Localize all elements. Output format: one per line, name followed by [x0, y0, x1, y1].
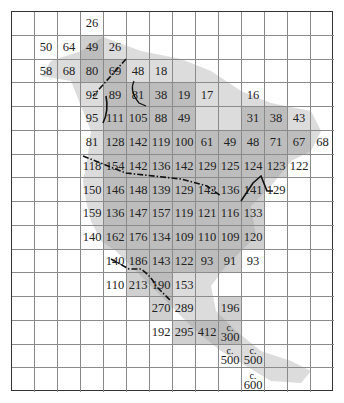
cell-value: 110: [106, 280, 124, 290]
grid-cell: [196, 107, 219, 131]
grid: 2650644926586880694818928981381917169511…: [11, 11, 333, 391]
grid-cell: [265, 368, 288, 392]
cell-value: 17: [201, 90, 214, 100]
grid-cell: [35, 226, 58, 250]
cell-value: 500: [221, 355, 240, 365]
grid-cell: 176: [127, 226, 150, 250]
grid-cell: [311, 83, 334, 107]
grid-cell: 95: [81, 107, 104, 131]
grid-cell: c.500: [242, 345, 265, 369]
grid-cell: 38: [265, 107, 288, 131]
grid-cell: 133: [242, 202, 265, 226]
grid-cell: [81, 368, 104, 392]
cell-value: 153: [175, 280, 194, 290]
grid-cell: 136: [219, 178, 242, 202]
grid-cell: 68: [58, 60, 81, 84]
cell-value: 140: [83, 232, 102, 242]
grid-cell: [127, 345, 150, 369]
grid-cell: [196, 12, 219, 36]
grid-cell: 148: [127, 178, 150, 202]
grid-cell: [12, 321, 35, 345]
cell-value: 136: [106, 208, 125, 218]
cell-value: 142: [175, 161, 194, 171]
grid-cell: 119: [173, 202, 196, 226]
grid-cell: 100: [173, 131, 196, 155]
grid-cell: [150, 12, 173, 36]
grid-cell: [58, 107, 81, 131]
grid-cell: [288, 250, 311, 274]
grid-cell: [12, 250, 35, 274]
grid-cell: [35, 250, 58, 274]
grid-cell: [81, 321, 104, 345]
grid-cell: [196, 36, 219, 60]
cell-value: 93: [201, 256, 214, 266]
grid-cell: 105: [127, 107, 150, 131]
grid-cell: 81: [127, 83, 150, 107]
grid-cell: [265, 226, 288, 250]
grid-cell: 69: [104, 60, 127, 84]
grid-cell: [35, 178, 58, 202]
grid-cell: 129: [196, 155, 219, 179]
cell-value: 133: [244, 208, 263, 218]
cell-value: 69: [109, 66, 122, 76]
grid-cell: 116: [219, 202, 242, 226]
grid-cell: [12, 202, 35, 226]
grid-cell: [311, 250, 334, 274]
grid-cell: [311, 12, 334, 36]
grid-cell: 111: [104, 107, 127, 131]
grid-cell: 289: [173, 297, 196, 321]
grid-cell: [127, 321, 150, 345]
grid-cell: [311, 155, 334, 179]
grid-cell: [265, 12, 288, 36]
grid-cell: 110: [104, 273, 127, 297]
grid-cell: [104, 12, 127, 36]
cell-value: 95: [86, 113, 99, 123]
grid-cell: 412: [196, 321, 219, 345]
grid-cell: 43: [288, 107, 311, 131]
grid-cell: [12, 297, 35, 321]
grid-map: 2650644926586880694818928981381917169511…: [11, 11, 333, 391]
grid-cell: [196, 345, 219, 369]
grid-cell: [265, 36, 288, 60]
cell-value: 270: [152, 303, 171, 313]
grid-cell: [12, 12, 35, 36]
cell-value: 26: [109, 42, 122, 52]
grid-cell: [242, 12, 265, 36]
grid-cell: [288, 321, 311, 345]
grid-cell: 64: [58, 36, 81, 60]
grid-cell: [196, 273, 219, 297]
grid-cell: [173, 368, 196, 392]
grid-cell: [12, 60, 35, 84]
grid-cell: [311, 36, 334, 60]
grid-cell: [35, 297, 58, 321]
grid-cell: [242, 273, 265, 297]
grid-cell: [288, 60, 311, 84]
grid-cell: [35, 83, 58, 107]
grid-cell: [58, 368, 81, 392]
cell-value: 88: [155, 113, 168, 123]
grid-cell: [35, 107, 58, 131]
cell-value: 176: [129, 232, 148, 242]
grid-cell: 119: [150, 131, 173, 155]
grid-cell: [81, 345, 104, 369]
grid-cell: [12, 273, 35, 297]
grid-cell: 154: [104, 155, 127, 179]
cell-value: 213: [129, 280, 148, 290]
cell-value: 157: [152, 208, 171, 218]
grid-cell: [196, 368, 219, 392]
cell-value: 147: [129, 208, 148, 218]
grid-cell: [12, 36, 35, 60]
cell-value: 295: [175, 327, 194, 337]
grid-cell: 50: [35, 36, 58, 60]
grid-cell: [219, 368, 242, 392]
grid-cell: [81, 297, 104, 321]
cell-value: 148: [129, 185, 148, 195]
grid-cell: [81, 273, 104, 297]
grid-cell: 110: [196, 226, 219, 250]
grid-cell: 141: [242, 178, 265, 202]
grid-cell: 140: [81, 226, 104, 250]
grid-cell: [288, 83, 311, 107]
cell-value: 129: [267, 185, 286, 195]
grid-cell: 142: [127, 155, 150, 179]
grid-cell: [265, 60, 288, 84]
